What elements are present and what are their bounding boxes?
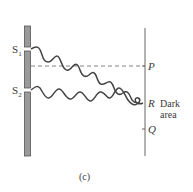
dark-area-line2: area [160, 109, 180, 120]
s2-subscript: 2 [18, 91, 22, 99]
point-label-p: P [148, 61, 155, 72]
slit-label-s1: S1 [12, 44, 22, 58]
point-label-r: R [148, 98, 155, 109]
point-label-q: Q [148, 124, 156, 135]
wave-from-s1 [31, 47, 140, 103]
s1-subscript: 1 [18, 50, 22, 58]
dark-area-line1: Dark [160, 98, 180, 109]
slit-barrier [25, 26, 31, 156]
double-slit-diagram [0, 0, 193, 192]
figure-caption: (c) [79, 172, 90, 182]
dark-area-annotation: Dark area [160, 98, 180, 120]
slit-label-s2: S2 [12, 85, 22, 99]
wave-from-s2 [31, 87, 143, 105]
